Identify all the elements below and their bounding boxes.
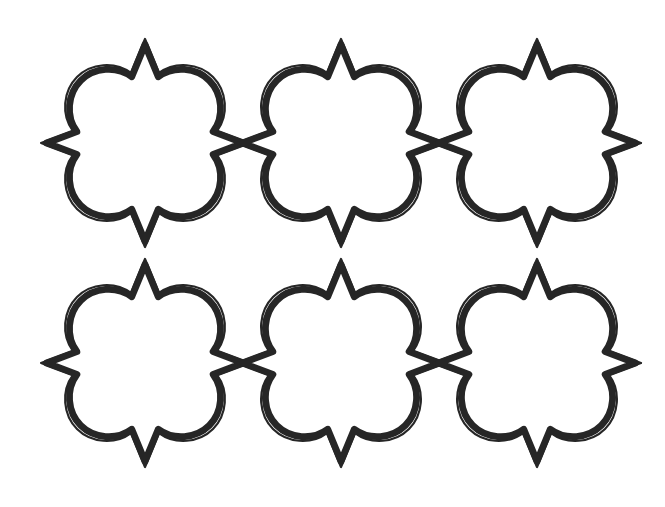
motif-r1c3 bbox=[433, 39, 641, 247]
motif-r2c2 bbox=[237, 259, 445, 467]
motif-r1c1 bbox=[41, 39, 249, 247]
motif-interior bbox=[47, 265, 244, 462]
motif-interior bbox=[243, 265, 440, 462]
artboard bbox=[0, 0, 665, 507]
motif-r2c1 bbox=[41, 259, 249, 467]
motif-r2c3 bbox=[433, 259, 641, 467]
octofoil-lattice-pattern bbox=[0, 0, 665, 507]
motif-r1c2 bbox=[237, 39, 445, 247]
motif-interior bbox=[47, 45, 244, 242]
motif-interior bbox=[243, 45, 440, 242]
motif-interior bbox=[439, 265, 636, 462]
motif-interior bbox=[439, 45, 636, 242]
